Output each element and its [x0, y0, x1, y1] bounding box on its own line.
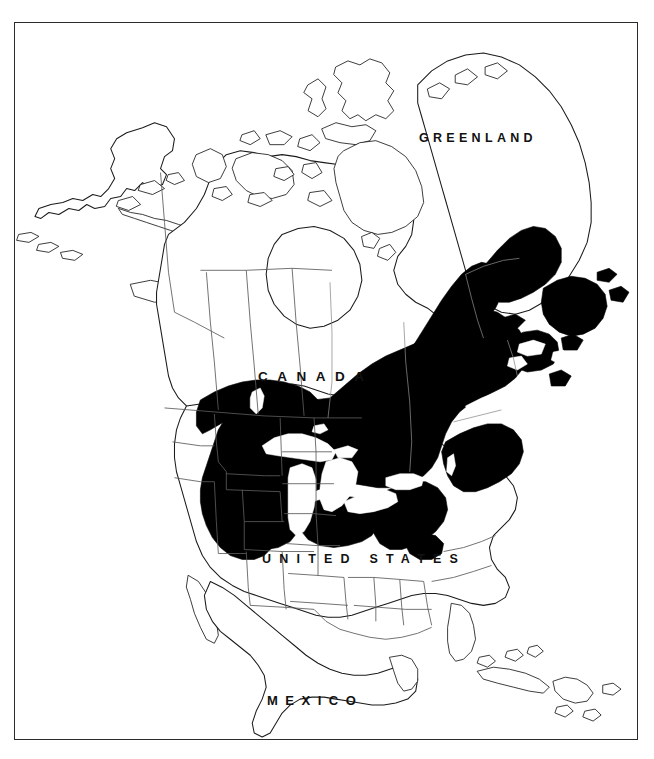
map-layers [17, 53, 629, 737]
caribbean-islands [478, 645, 622, 721]
map-frame-border: .coast { fill:#ffffff; stroke:#1a1a1a; s… [14, 22, 638, 740]
north-america-map: .coast { fill:#ffffff; stroke:#1a1a1a; s… [15, 23, 637, 739]
distribution-map-figure: .coast { fill:#ffffff; stroke:#1a1a1a; s… [0, 0, 654, 759]
